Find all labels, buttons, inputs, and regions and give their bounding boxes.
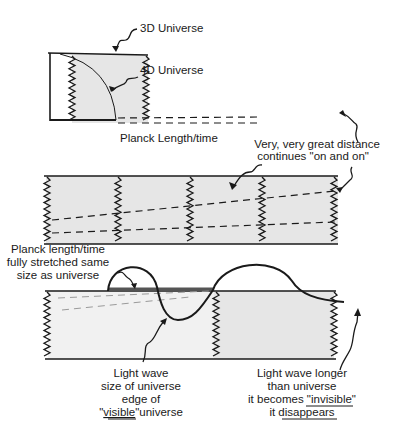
label-visible-underlined: visible [103,406,135,418]
arrow-3d-universe [116,29,137,50]
label-becomes-invisible: it becomes "invisible" [248,393,356,405]
label-very-great-distance: Very, very great distance [254,138,380,150]
label-stretched-line3: size as universe [17,269,99,281]
arrowhead-3d [112,46,119,52]
label-continues: continues "on and on" [257,150,369,162]
label-planck-length: Planck Length/time [120,132,218,144]
panel-2: continues "on and on" [44,150,369,244]
label-stretched-line2: fully stretched same [7,256,109,268]
arrow-continues-right [340,167,352,190]
far-region-fill [214,291,334,359]
label-longer-line2: than universe [267,380,336,392]
label-disappears: it disappears [269,406,334,418]
arrow-invisible [340,312,358,370]
label-light-wave-line3: edge of [122,393,161,405]
label-longer-line1: Light wave longer [257,367,347,379]
universe-diagram: 3D Universe 4D Universe Planck Length/ti… [0,0,393,438]
arrow-stretched [118,272,134,287]
near-region-fill [48,291,214,359]
arrowhead-invisible [354,308,361,316]
label-stretched-line1: Planck length/time [11,243,105,255]
label-light-wave-line2: size of universe [101,380,181,392]
label-4d-universe: 4D Universe [140,64,203,76]
panel-1: 3D Universe 4D Universe Planck Length/ti… [48,22,380,150]
label-light-wave-line1: Light wave [114,367,169,379]
label-3d-universe: 3D Universe [140,22,203,34]
arrowhead-distance [339,110,346,117]
panel-3: Planck length/time fully stretched same … [7,243,361,419]
label-visible-universe: "visible"universe [99,406,183,418]
